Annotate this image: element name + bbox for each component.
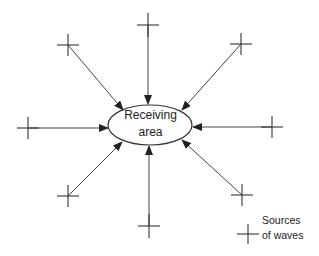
arrow-top-right — [182, 44, 241, 110]
receiving-area-label: Receiving area — [108, 107, 193, 141]
receiving-area-line2: area — [108, 124, 193, 141]
receiving-area-line1: Receiving — [108, 107, 193, 124]
source-cross-icon-top — [137, 13, 159, 37]
legend-line2: of waves — [262, 228, 318, 243]
diagram-canvas: Receiving area Sources of waves — [0, 0, 319, 256]
source-cross-icon-bottom — [138, 214, 160, 238]
arrow-bottom-left — [68, 142, 122, 196]
source-cross-icon-right — [261, 116, 283, 138]
arrow-bottom-right — [182, 140, 242, 195]
source-cross-icon-top-right — [230, 33, 252, 55]
arrow-top-left — [68, 45, 123, 110]
legend-label: Sources of waves — [262, 213, 318, 243]
source-cross-icon-top-left — [57, 34, 79, 56]
legend-cross-icon — [237, 224, 259, 244]
source-cross-icon-left — [17, 117, 39, 139]
legend-line1: Sources — [262, 213, 318, 228]
